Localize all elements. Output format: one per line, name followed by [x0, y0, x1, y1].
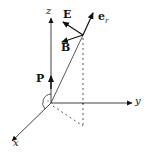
e-r-subscript: r: [105, 17, 108, 25]
e-r-vector: [83, 13, 93, 35]
p-dipole-label: P: [36, 73, 44, 84]
e-r-label: er: [98, 11, 108, 25]
x-axis-label: x: [13, 138, 19, 148]
projection-ground-dashed: [53, 106, 83, 126]
angle-dot: [47, 100, 48, 101]
e-field-label: E: [63, 9, 71, 20]
e-field-vector: [63, 22, 83, 35]
b-field-label: B: [61, 42, 70, 53]
dipole-radiation-diagram: z y x E B er P: [0, 0, 147, 152]
diagram-svg: [0, 0, 147, 152]
y-axis-label: y: [135, 96, 141, 106]
z-axis-label: z: [46, 6, 51, 16]
e-r-base: e: [98, 10, 105, 23]
